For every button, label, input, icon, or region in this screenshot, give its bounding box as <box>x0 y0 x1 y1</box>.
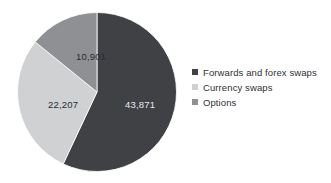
pie-chart-plot-area: 43,871 22,207 10,901 <box>17 12 177 172</box>
legend-swatch-icon-forwards-and-forex-swaps <box>192 69 198 75</box>
slice-value-label-currency-swaps: 22,207 <box>48 99 78 110</box>
pie-chart-svg <box>17 12 177 172</box>
legend-item-currency-swaps[interactable]: Currency swaps <box>192 80 328 94</box>
slice-value-label-options: 10,901 <box>76 51 106 62</box>
legend-label-options: Options <box>203 97 236 108</box>
legend-label-forwards-and-forex-swaps: Forwards and forex swaps <box>203 67 317 78</box>
pie-slice-group <box>17 13 176 172</box>
legend-item-forwards-and-forex-swaps[interactable]: Forwards and forex swaps <box>192 65 328 79</box>
legend-label-currency-swaps: Currency swaps <box>203 82 273 93</box>
legend-item-options[interactable]: Options <box>192 95 328 109</box>
pie-chart-figure: 43,871 22,207 10,901 Forwards and forex … <box>0 0 331 183</box>
legend-swatch-icon-currency-swaps <box>192 84 198 90</box>
slice-value-label-forwards-and-forex-swaps: 43,871 <box>125 99 155 110</box>
legend-swatch-icon-options <box>192 99 198 105</box>
chart-legend: Forwards and forex swaps Currency swaps … <box>192 65 328 110</box>
